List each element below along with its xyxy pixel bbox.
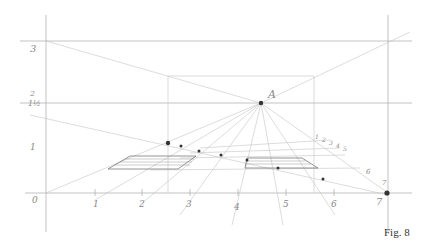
division-point (322, 178, 325, 181)
svg-text:2: 2 (321, 136, 326, 143)
baseline-label-1: 1 (93, 199, 99, 209)
measuring-point (166, 141, 170, 145)
label-left-2: 2 (29, 89, 35, 98)
label-a: A (267, 88, 276, 101)
svg-text:5: 5 (343, 145, 347, 152)
baseline-label-7: 7 (376, 196, 383, 207)
label-left-0: 0 (32, 195, 38, 205)
division-point (180, 145, 183, 148)
baseline-label-3: 3 (186, 199, 192, 209)
division-point (220, 154, 223, 157)
svg-text:1: 1 (315, 133, 319, 140)
vanishing-point-a (259, 101, 263, 105)
division-point (198, 150, 201, 153)
svg-text:7: 7 (382, 179, 387, 187)
ray-right-corner (261, 103, 388, 193)
label-left-1: 1 (30, 142, 36, 152)
perspective-diagram: A 3 2 1½ 1 0 1 2 3 4 5 6 7 1 2 3 4 5 6 7 (0, 0, 434, 251)
shaded-region-right (245, 158, 318, 168)
label-left-3: 3 (30, 43, 36, 54)
baseline-label-5: 5 (283, 199, 289, 209)
corner-point (384, 190, 389, 195)
division-point (246, 159, 249, 162)
depth-labels: 1 2 3 4 5 6 7 (315, 133, 387, 187)
baseline-label-2: 2 (138, 199, 145, 209)
baseline-label-6: 6 (331, 199, 337, 209)
diagonal-top-left (46, 41, 261, 103)
svg-text:6: 6 (366, 168, 371, 176)
label-left-1-5: 1½ (28, 99, 41, 108)
svg-text:3: 3 (329, 139, 333, 146)
baseline-label-4: 4 (233, 202, 240, 212)
figure-caption: Fig. 8 (384, 226, 410, 238)
division-point (277, 167, 280, 170)
svg-text:4: 4 (335, 142, 340, 149)
baseline-ticks (95, 189, 334, 196)
